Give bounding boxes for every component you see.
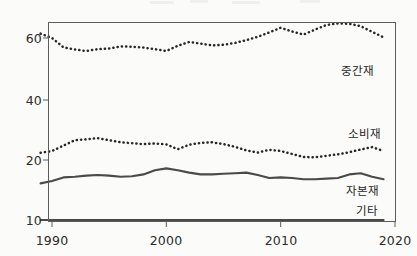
series-label-gita: 기타 xyxy=(356,202,378,218)
series-label-jabonjae: 자본재 xyxy=(346,182,379,198)
x-tick-label-2010: 2010 xyxy=(258,233,304,248)
y-tick-label-10: 10 xyxy=(8,213,42,228)
plot-area-frame xyxy=(48,22,396,222)
x-tick-label-2000: 2000 xyxy=(143,233,189,248)
chart-figure: 60 40 20 10 1990 2000 2010 2020 중간재 소비재 … xyxy=(0,0,417,256)
x-tick-label-1990: 1990 xyxy=(29,233,75,248)
y-tick-label-60: 60 xyxy=(8,31,42,46)
x-tick-label-2020: 2020 xyxy=(372,233,417,248)
series-label-jungganjae: 중간재 xyxy=(341,62,374,78)
series-label-sobijae: 소비재 xyxy=(348,125,381,141)
y-tick-label-20: 20 xyxy=(8,153,42,168)
y-tick-label-40: 40 xyxy=(8,93,42,108)
